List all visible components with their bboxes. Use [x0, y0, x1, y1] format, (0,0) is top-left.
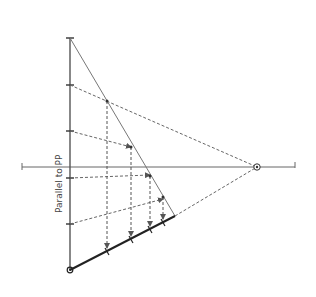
thick-base-line: [70, 216, 175, 270]
tick-projection-lines: [70, 131, 163, 224]
parallel-label: Parallel to PP: [54, 154, 64, 213]
diagonal-line: [70, 38, 175, 216]
perspective-diagram: Parallel to PP: [0, 0, 316, 297]
